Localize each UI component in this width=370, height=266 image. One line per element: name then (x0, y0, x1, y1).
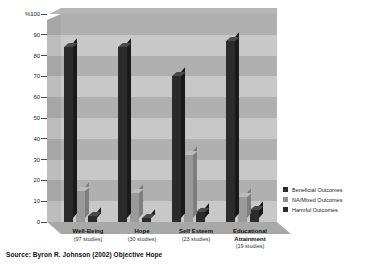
y-axis-tick: %100 (0, 11, 47, 17)
legend-label-harmful: Harmful Outcomes (292, 207, 338, 213)
y-axis-tick: 40 (0, 136, 47, 142)
bar-2 (142, 218, 151, 222)
bar-group (172, 14, 226, 222)
bar-group (226, 14, 280, 222)
bar-side-face (181, 68, 185, 218)
y-axis-tick: 90 (0, 32, 47, 38)
bar-0 (64, 47, 73, 222)
x-axis-label: EducationalAttainment(19 studies) (213, 228, 287, 251)
bar-side-face (235, 32, 239, 218)
bars-layer (47, 8, 277, 234)
bar-front-face (88, 216, 97, 222)
legend-item-beneficial: Beneficial Outcomes (283, 186, 367, 193)
x-axis-label-name: EducationalAttainment (213, 228, 287, 243)
bar-1 (184, 155, 193, 222)
bar-front-face (226, 41, 235, 222)
y-axis-tick: 70 (0, 73, 47, 79)
bar-front-face (184, 155, 193, 222)
bar-0 (226, 41, 235, 222)
y-axis-tick: 60 (0, 94, 47, 100)
bar-front-face (118, 47, 127, 222)
bar-2 (250, 210, 259, 222)
source-caption: Source: Byron R. Johnson (2002) Objectiv… (6, 251, 162, 258)
y-axis: %1009080706050403020100 (0, 0, 47, 240)
bar-side-face (193, 147, 197, 218)
y-axis-tick: 20 (0, 177, 47, 183)
y-axis-tick: 0 (0, 219, 47, 225)
bar-0 (172, 76, 181, 222)
bar-group (64, 14, 118, 222)
bar-1 (130, 193, 139, 222)
y-axis-tick: 50 (0, 115, 47, 121)
bar-front-face (130, 193, 139, 222)
bar-front-face (196, 212, 205, 222)
bar-front-face (64, 47, 73, 222)
bar-group (118, 14, 172, 222)
bar-1 (238, 197, 247, 222)
bar-side-face (127, 39, 131, 218)
y-axis-tick: 10 (0, 198, 47, 204)
bar-front-face (172, 76, 181, 222)
legend-swatch-icon-na-mixed (283, 197, 288, 202)
x-axis-label-count: (19 studies) (213, 243, 287, 251)
bar-2 (88, 216, 97, 222)
y-axis-tick: 30 (0, 157, 47, 163)
bar-front-face (76, 191, 85, 222)
legend-item-na-mixed: NA/Mixed Outcomes (283, 196, 367, 203)
legend-label-beneficial: Beneficial Outcomes (292, 187, 342, 193)
legend-label-na-mixed: NA/Mixed Outcomes (292, 197, 342, 203)
chart-legend: Beneficial Outcomes NA/Mixed Outcomes Ha… (283, 186, 367, 216)
bar-2 (196, 212, 205, 222)
bar-front-face (142, 218, 151, 222)
bar-front-face (238, 197, 247, 222)
legend-swatch-icon-beneficial (283, 187, 288, 192)
bar-1 (76, 191, 85, 222)
legend-item-harmful: Harmful Outcomes (283, 206, 367, 213)
plot-area (47, 8, 277, 226)
legend-swatch-icon-harmful (283, 207, 288, 212)
bar-side-face (73, 39, 77, 218)
bar-front-face (250, 210, 259, 222)
y-axis-tick: 80 (0, 53, 47, 59)
bar-chart: %1009080706050403020100 Well-Being(97 st… (0, 0, 370, 266)
bar-0 (118, 47, 127, 222)
